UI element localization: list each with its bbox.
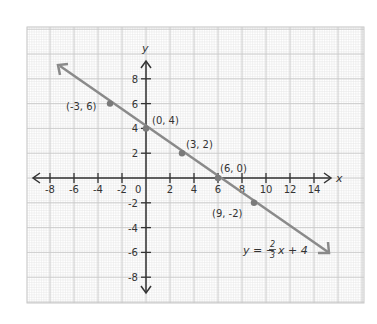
coordinate-graph: -8-6-4-22468101214 8642-2-4-6-8 x y 0 (-…	[0, 0, 377, 324]
x-tick-label: 10	[260, 184, 273, 195]
point-label: (0, 4)	[152, 115, 179, 126]
y-tick-label: -6	[128, 247, 138, 258]
equation-numerator: 2	[270, 240, 275, 249]
y-tick-label: 6	[132, 99, 138, 110]
point-label: (6, 0)	[220, 163, 247, 174]
x-tick-label: 12	[284, 184, 297, 195]
y-axis-label: y	[141, 42, 149, 55]
origin-label: 0	[135, 184, 141, 195]
point-marker	[107, 100, 113, 106]
point-marker	[179, 150, 185, 156]
x-tick-label: -8	[45, 184, 55, 195]
x-tick-label: -4	[93, 184, 103, 195]
x-tick-label: 2	[167, 184, 173, 195]
x-tick-label: 14	[308, 184, 321, 195]
y-tick-label: -2	[128, 198, 138, 209]
x-axis-label: x	[335, 172, 343, 185]
y-tick-label: 8	[132, 74, 138, 85]
point-label: (-3, 6)	[66, 101, 97, 112]
x-tick-label: 6	[215, 184, 221, 195]
x-tick-label: 4	[191, 184, 197, 195]
equation-denominator: 3	[270, 251, 275, 260]
point-label: (9, -2)	[212, 208, 243, 219]
point-label: (3, 2)	[186, 139, 213, 150]
equation-rhs: x + 4	[277, 244, 308, 257]
point-marker	[143, 125, 149, 131]
point-marker	[215, 175, 221, 181]
point-marker	[251, 200, 257, 206]
y-tick-label: -4	[128, 223, 138, 234]
y-tick-label: 2	[132, 148, 138, 159]
y-tick-label: 4	[132, 123, 138, 134]
y-tick-label: -8	[128, 272, 138, 283]
grid-minor	[27, 27, 364, 303]
x-tick-label: -6	[69, 184, 79, 195]
x-tick-label: -2	[117, 184, 127, 195]
